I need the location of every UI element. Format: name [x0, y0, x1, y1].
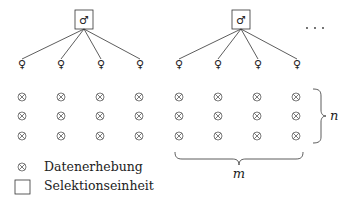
female-icon: ♀	[293, 58, 301, 71]
m-label: m	[233, 166, 245, 181]
legend-label-data-collection: Datenerhebung	[44, 159, 143, 174]
selection-group-2: ♂ ♀ ♀ ♀ ♀	[175, 10, 301, 71]
data-point-row	[18, 132, 300, 140]
legend-selection-unit-icon	[15, 180, 30, 194]
continuation-ellipsis	[306, 27, 324, 29]
connector-lines	[22, 29, 140, 59]
female-icon: ♀	[57, 58, 65, 71]
data-point-row	[18, 93, 300, 101]
male-icon: ♂	[236, 14, 246, 27]
connector-lines	[179, 29, 297, 59]
data-point-row	[18, 112, 300, 120]
male-icon: ♂	[79, 14, 89, 27]
female-icon: ♀	[97, 58, 105, 71]
n-label: n	[330, 108, 338, 123]
legend-label-selection-unit: Selektionseinheit	[44, 178, 154, 193]
female-icon: ♀	[136, 58, 144, 71]
female-icon: ♀	[175, 58, 183, 71]
column-brace	[175, 152, 303, 165]
data-point-grid	[18, 93, 300, 140]
row-brace	[313, 89, 326, 143]
female-icon: ♀	[214, 58, 222, 71]
legend-data-point-icon	[18, 163, 26, 171]
female-icon: ♀	[254, 58, 262, 71]
selection-group-1: ♂ ♀ ♀ ♀ ♀	[18, 10, 144, 71]
female-icon: ♀	[18, 58, 26, 71]
